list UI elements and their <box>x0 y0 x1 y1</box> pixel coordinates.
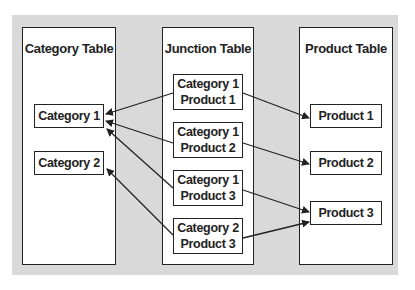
arrow-j2-to-product-2 <box>243 143 309 164</box>
arrow-j3-to-product-3 <box>243 190 309 212</box>
arrow-j1-to-category-1 <box>106 93 173 114</box>
arrow-j4-to-product-3 <box>243 222 309 238</box>
arrow-j1-to-product-1 <box>243 93 309 118</box>
relationship-arrows <box>0 0 415 290</box>
arrow-j2-to-category-1 <box>106 121 173 143</box>
